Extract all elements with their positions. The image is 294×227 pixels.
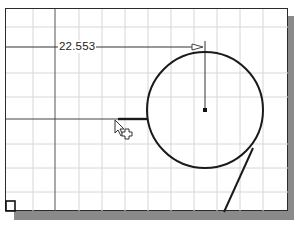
crosshair-plus-icon [122,129,132,139]
sketch-canvas[interactable] [0,0,294,227]
origin-marker-icon [6,201,15,211]
dimension-value[interactable]: 22.553 [58,40,96,53]
dimension-arrow-icon [192,44,203,50]
circle-center-point[interactable] [203,108,207,112]
